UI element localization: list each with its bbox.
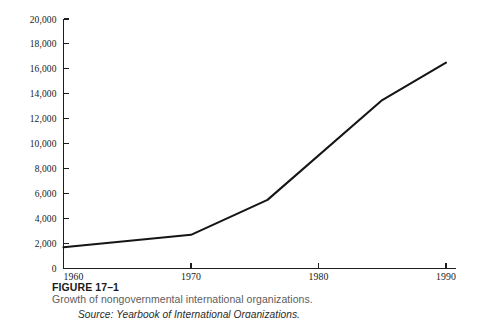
x-tick-label: 1990 bbox=[436, 271, 456, 280]
figure-number-label: FIGURE 17–1 bbox=[52, 281, 472, 293]
figure-container: 02,0004,0006,0008,00010,00012,00014,0001… bbox=[0, 0, 485, 318]
y-tick-label: 4,000 bbox=[35, 214, 57, 224]
y-axis: 02,0004,0006,0008,00010,00012,00014,0001… bbox=[30, 15, 69, 275]
data-series-group bbox=[64, 63, 447, 248]
figure-source-text: Source: Yearbook of International Organi… bbox=[78, 308, 472, 318]
chart-plot-area: 02,0004,0006,0008,00010,00012,00014,0001… bbox=[0, 0, 485, 280]
y-tick-label: 8,000 bbox=[35, 164, 57, 174]
line-chart: 02,0004,0006,0008,00010,00012,00014,0001… bbox=[0, 0, 485, 280]
y-tick-label: 18,000 bbox=[30, 39, 57, 49]
y-tick-label: 16,000 bbox=[30, 64, 57, 74]
y-tick-label: 14,000 bbox=[30, 89, 57, 99]
y-tick-label: 10,000 bbox=[30, 139, 57, 149]
y-tick-label: 12,000 bbox=[30, 114, 57, 124]
figure-caption: FIGURE 17–1 Growth of nongovernmental in… bbox=[52, 281, 472, 318]
figure-title-text: Growth of nongovernmental international … bbox=[52, 293, 472, 306]
y-tick-label: 6,000 bbox=[35, 189, 57, 199]
y-tick-label: 0 bbox=[52, 264, 57, 274]
x-axis: 1960197019801990 bbox=[64, 263, 457, 280]
y-tick-label: 20,000 bbox=[30, 15, 57, 25]
x-tick-label: 1980 bbox=[309, 271, 329, 280]
y-tick-label: 2,000 bbox=[35, 239, 57, 249]
data-line bbox=[64, 63, 447, 248]
x-tick-label: 1960 bbox=[64, 271, 84, 280]
x-tick-label: 1970 bbox=[181, 271, 201, 280]
